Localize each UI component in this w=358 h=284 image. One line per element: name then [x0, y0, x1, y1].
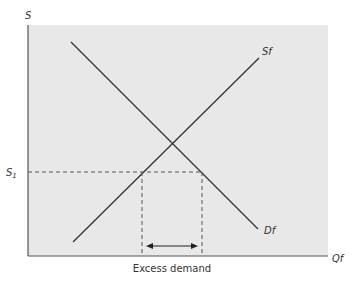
y-axis-label: S [25, 10, 32, 21]
price-level-label: S1 [6, 167, 17, 180]
supply-label: Sf [262, 46, 273, 57]
excess-demand-label: Excess demand [133, 263, 211, 274]
x-axis-label: Qf [332, 253, 345, 264]
demand-label: Df [264, 225, 277, 236]
plot-panel [28, 25, 328, 256]
excess-demand-diagram: S Sf Df S1 Qf Excess demand [0, 0, 358, 284]
